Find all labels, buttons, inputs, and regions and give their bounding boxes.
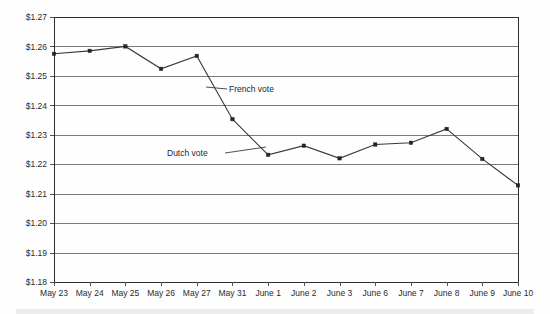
annotation-leader-line-dutch-vote [225,147,266,153]
x-axis-tick-label: May 24 [76,288,104,298]
x-axis-tick-label: June 9 [470,288,496,298]
x-axis-tick-label: May 27 [183,288,211,298]
data-point-marker [516,184,519,187]
data-point-marker [445,127,448,130]
data-point-marker [374,143,377,146]
x-axis-tick-label: May 31 [219,288,247,298]
data-point-marker [195,54,198,57]
x-axis-tick-label: June 3 [327,288,353,298]
y-axis-tick-label: $1.27 [26,12,48,22]
chart-annotations: French voteDutch vote [167,84,274,158]
x-axis-tick-label: May 25 [111,288,139,298]
chart-canvas: $1.27$1.26$1.25$1.24$1.23$1.22$1.21$1.20… [0,0,550,314]
annotation-label-french-vote: French vote [229,84,274,94]
x-axis-tick-label: June 7 [398,288,424,298]
data-point-marker [88,49,91,52]
x-axis-tick-label: June 10 [503,288,534,298]
y-axis-tick-label: $1.23 [26,130,48,140]
bottom-band [16,309,534,314]
data-point-marker [52,52,55,55]
data-point-marker [124,45,127,48]
data-point-marker [481,157,484,160]
y-axis-tick-label: $1.20 [26,218,48,228]
y-axis-tick-label: $1.19 [26,248,48,258]
data-point-marker [231,117,234,120]
x-axis-tick-label: June 6 [362,288,388,298]
annotation-leader-line-french-vote [206,87,227,89]
data-point-marker [266,153,269,156]
y-axis-tick-label: $1.25 [26,71,48,81]
x-axis-tick-label: May 23 [40,288,68,298]
data-point-marker [338,157,341,160]
y-axis-tick-label: $1.26 [26,42,48,52]
annotation-label-dutch-vote: Dutch vote [167,148,208,158]
data-point-marker [302,144,305,147]
data-markers [52,45,519,187]
x-axis-tick-label: June 2 [291,288,317,298]
y-axis-tick-label: $1.24 [26,101,48,111]
x-axis-tick-label: June 1 [255,288,281,298]
y-axis-tick-label: $1.18 [26,277,48,287]
data-point-marker [159,67,162,70]
y-axis-tick-label: $1.21 [26,189,48,199]
axis-ticks [50,18,519,287]
x-axis-tick-label: June 8 [434,288,460,298]
x-axis-labels: May 23May 24May 25May 26May 27May 31June… [40,288,533,298]
line-chart: $1.27$1.26$1.25$1.24$1.23$1.22$1.21$1.20… [0,0,550,314]
data-point-marker [409,141,412,144]
y-axis-tick-label: $1.22 [26,159,48,169]
x-axis-tick-label: May 26 [147,288,175,298]
y-axis-labels: $1.27$1.26$1.25$1.24$1.23$1.22$1.21$1.20… [26,12,48,287]
